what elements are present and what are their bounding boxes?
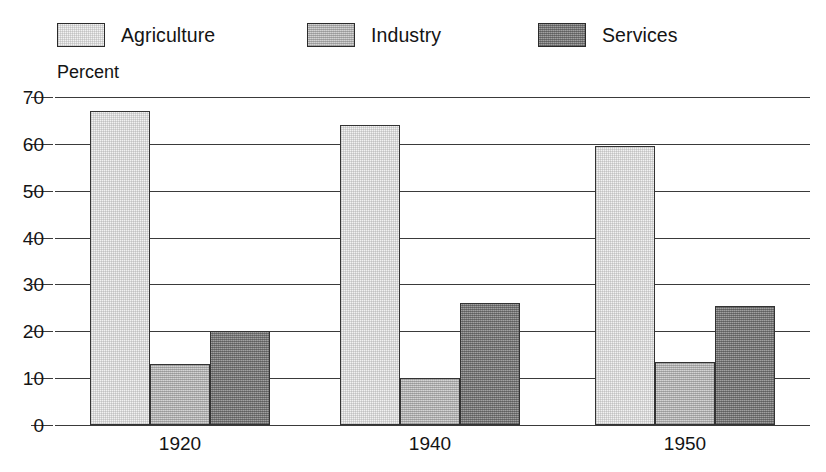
y-tick-label-70: 70 <box>0 88 44 107</box>
bar-industry-1940 <box>400 378 460 425</box>
bar-agriculture-1920 <box>90 111 150 425</box>
gridline-40 <box>55 238 810 239</box>
legend-item-industry: Industry <box>307 22 441 48</box>
gridline-70 <box>55 97 810 98</box>
y-tick-label-60: 60 <box>0 134 44 153</box>
bar-chart: Agriculture Industry Services Percent 01… <box>0 0 826 472</box>
bar-services-1950 <box>715 306 775 425</box>
chart-legend: Agriculture Industry Services <box>0 0 826 62</box>
legend-swatch-services <box>538 23 586 47</box>
x-tick-label-1920: 1920 <box>159 433 201 455</box>
y-tick-label-40: 40 <box>0 228 44 247</box>
gridline-30 <box>55 284 810 285</box>
legend-label-agriculture: Agriculture <box>121 23 215 47</box>
gridline-20 <box>55 331 810 332</box>
legend-item-agriculture: Agriculture <box>57 22 215 48</box>
bar-agriculture-1940 <box>340 125 400 425</box>
plot-area: 010203040506070192019401950 <box>55 97 810 425</box>
legend-swatch-industry <box>307 23 355 47</box>
bar-agriculture-1950 <box>595 146 655 425</box>
legend-label-services: Services <box>602 23 678 47</box>
bar-services-1920 <box>210 331 270 425</box>
x-tick-label-1950: 1950 <box>664 433 706 455</box>
gridline-60 <box>55 144 810 145</box>
y-tick-label-30: 30 <box>0 275 44 294</box>
y-tick-label-0: 0 <box>0 416 44 435</box>
y-tick-label-20: 20 <box>0 322 44 341</box>
legend-swatch-agriculture <box>57 23 105 47</box>
legend-item-services: Services <box>538 22 678 48</box>
bar-services-1940 <box>460 303 520 425</box>
gridline-0 <box>55 425 810 426</box>
y-axis-title: Percent <box>57 62 119 83</box>
y-tick-label-50: 50 <box>0 181 44 200</box>
y-tick-label-10: 10 <box>0 369 44 388</box>
legend-label-industry: Industry <box>371 23 441 47</box>
x-tick-label-1940: 1940 <box>409 433 451 455</box>
gridline-50 <box>55 191 810 192</box>
bar-industry-1950 <box>655 362 715 425</box>
bar-industry-1920 <box>150 364 210 425</box>
